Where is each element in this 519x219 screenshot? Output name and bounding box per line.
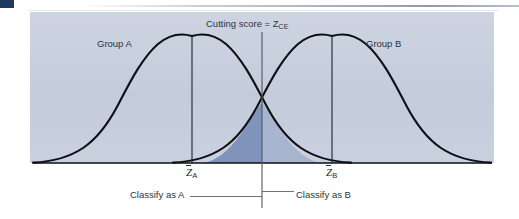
group-b-label: Group B: [366, 39, 401, 49]
normal-distribution-cutting-score-figure: Cutting score = ZCE Group A Group B ZA Z…: [0, 0, 519, 219]
mean-a-label: ZA: [186, 166, 197, 178]
classify-as-a-label: Classify as A: [130, 190, 184, 200]
distribution-plot: [0, 0, 519, 219]
cutting-score-text: Cutting score = Z: [206, 18, 279, 29]
mean-b-subscript: B: [332, 171, 337, 180]
classify-as-b-label: Classify as B: [296, 190, 351, 200]
cutting-score-label: Cutting score = ZCE: [206, 19, 288, 29]
group-a-label: Group A: [97, 39, 132, 49]
cutting-score-subscript: CE: [279, 23, 289, 30]
mean-b-label: ZB: [326, 166, 337, 178]
mean-a-subscript: A: [192, 171, 197, 180]
